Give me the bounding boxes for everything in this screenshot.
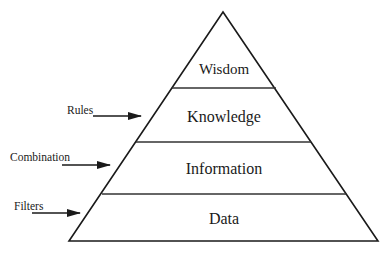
input-label-combination: Combination	[10, 151, 70, 163]
input-rules: Rules	[67, 104, 141, 116]
input-label-rules: Rules	[67, 104, 94, 116]
input-label-filters: Filters	[14, 200, 44, 212]
dikw-pyramid-diagram: Wisdom Knowledge Information Data Rules …	[0, 0, 390, 253]
layer-label-wisdom: Wisdom	[199, 61, 250, 77]
layer-label-information: Information	[186, 160, 262, 177]
pyramid-outline	[69, 12, 378, 241]
layer-label-data: Data	[209, 210, 239, 227]
input-combination: Combination	[10, 151, 110, 165]
input-filters: Filters	[14, 200, 80, 213]
layer-label-knowledge: Knowledge	[187, 108, 261, 126]
